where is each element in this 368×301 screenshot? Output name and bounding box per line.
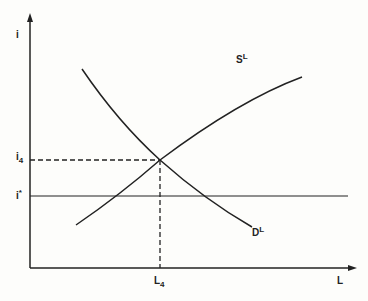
x-axis-arrow-icon	[348, 265, 357, 271]
supply-label: SL	[236, 53, 248, 65]
demand-label: DL	[252, 226, 264, 238]
istar-label: i*	[16, 189, 22, 201]
y-axis-label: i	[16, 30, 19, 40]
diagram-svg	[0, 0, 368, 301]
x-axis-label: L	[337, 276, 343, 286]
l4-label: L4	[154, 276, 165, 289]
supply-curve	[76, 77, 302, 225]
diagram-canvas: i L i4 i* SL DL L4	[0, 0, 368, 301]
i4-label: i4	[16, 152, 23, 165]
y-axis-arrow-icon	[27, 13, 33, 22]
